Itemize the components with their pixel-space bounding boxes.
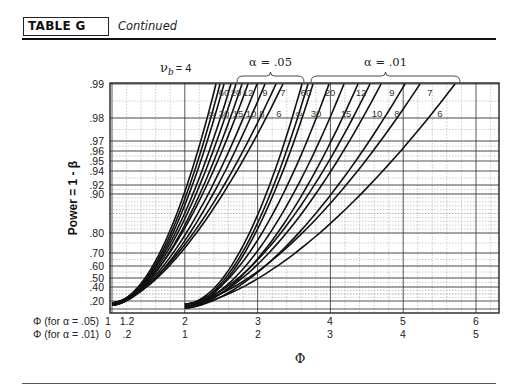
df-label: ∞: [209, 108, 216, 119]
x-tick-label: 0: [105, 328, 111, 340]
y-tick-label: .60: [89, 260, 104, 272]
alpha-brace: [311, 72, 460, 82]
df-label: 60: [301, 87, 312, 98]
df-label: 12: [356, 87, 367, 98]
x-axis-label: Φ: [295, 351, 306, 366]
x-row-label: Φ (for α = .01): [33, 328, 99, 340]
y-tick-label: .99: [89, 78, 104, 90]
df-label: 9: [389, 87, 394, 98]
x-tick-label: 1.2: [120, 315, 135, 327]
df-label: ∞: [296, 108, 303, 119]
x-axis-rows: Φ (for α = .05)11.223456Φ (for α = .01)0…: [33, 315, 479, 340]
alpha-brace: [237, 72, 304, 82]
df-label: 7: [427, 87, 432, 98]
df-label: 15: [341, 108, 352, 119]
df-label: 20: [325, 87, 336, 98]
x-tick-label: 3: [255, 315, 261, 327]
y-tick-label: .94: [89, 165, 104, 177]
df-label: 6: [437, 108, 442, 119]
alpha-braces: α = .05α = .01: [237, 55, 460, 82]
df-label: 9: [262, 87, 267, 98]
nu-b-label: νb= 4: [160, 60, 191, 77]
x-tick-label: 4: [327, 315, 333, 327]
x-tick-label: .2: [123, 328, 132, 340]
df-label: 10: [372, 108, 383, 119]
df-label: 6: [276, 108, 281, 119]
power-chart: .99.98.97.96.95.94.92.90.80.70.60.50.40.…: [0, 0, 527, 386]
df-label: 20: [231, 87, 242, 98]
y-tick-label: .70: [89, 247, 104, 259]
y-tick-label: .40: [89, 281, 104, 293]
df-label: 7: [280, 87, 285, 98]
df-label: 60: [219, 87, 230, 98]
x-tick-label: 2: [182, 315, 188, 327]
df-label: 15: [233, 108, 244, 119]
y-tick-label: .20: [89, 295, 104, 307]
alpha-label: α = .01: [364, 55, 407, 69]
x-tick-label: 3: [327, 328, 333, 340]
df-label: 8: [259, 108, 264, 119]
y-tick-label: .80: [89, 227, 104, 239]
x-tick-label: 5: [400, 315, 406, 327]
y-tick-label: .90: [89, 188, 104, 200]
df-label: 30: [219, 108, 230, 119]
df-label: 10: [246, 108, 257, 119]
y-axis-label: Power = 1 - β: [66, 161, 80, 235]
x-tick-label: 4: [400, 328, 406, 340]
x-tick-label: 2: [255, 328, 261, 340]
x-tick-label: 1: [182, 328, 188, 340]
x-tick-label: 5: [473, 328, 479, 340]
x-tick-label: 6: [473, 315, 479, 327]
alpha-label: α = .05: [249, 55, 292, 69]
y-axis-ticks: .99.98.97.96.95.94.92.90.80.70.60.50.40.…: [89, 78, 104, 307]
y-tick-label: .98: [89, 112, 104, 124]
x-tick-label: 1: [105, 315, 111, 327]
df-label: 12: [243, 87, 254, 98]
x-row-label: Φ (for α = .05): [33, 315, 99, 327]
df-label: 8: [394, 108, 399, 119]
df-label: 30: [311, 108, 322, 119]
